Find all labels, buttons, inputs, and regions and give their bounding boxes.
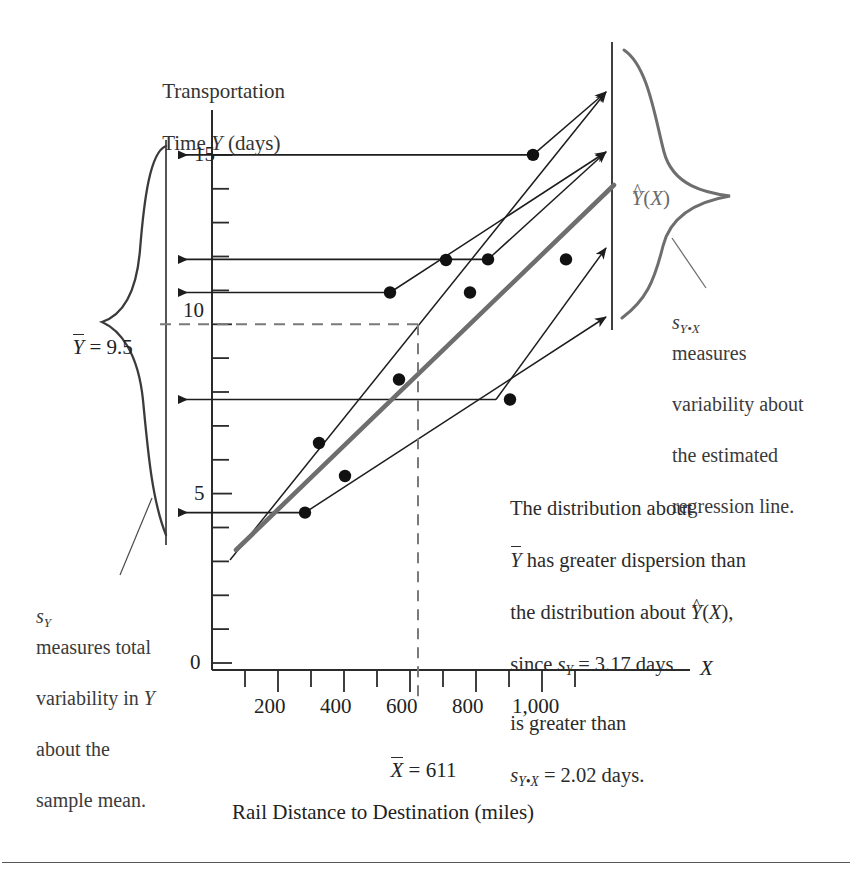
bottom-divider [2,862,850,863]
left-note: sY measures total variability in Y about… [26,578,216,813]
center-note-line6: = 2.02 days. [539,764,645,786]
data-point [440,254,452,266]
left-note-line1: measures total [36,636,151,658]
center-note-line5: is greater than [510,712,626,734]
right-note-leader [672,238,706,288]
y-tick-label-15: 15 [194,142,215,167]
center-note-line3a: the distribution about [510,601,691,623]
center-note-sub1: Y [565,663,573,678]
y-tick-label-5: 5 [194,481,205,506]
data-point [313,437,325,449]
data-point [299,506,311,518]
data-point [393,373,405,385]
center-note: The distribution about Y has greater dis… [500,469,800,795]
x-tick-label-400: 400 [320,694,352,719]
center-note-line4a: since [510,653,557,675]
left-note-line2: variability in Y [36,687,155,709]
data-point [504,393,516,405]
left-note-line4: sample mean. [36,789,146,811]
x-tick-label-200: 200 [254,694,286,719]
y-mean-label: Y = 9.5 [62,310,133,360]
data-point [527,149,539,161]
data-point [464,286,476,298]
center-note-sub2: Y•X [518,774,539,789]
left-note-line3: about the [36,738,110,760]
x-tick-label-600: 600 [386,694,418,719]
y-tick-label-10: 10 [183,298,204,323]
right-note-subscript: Y•X [680,320,700,335]
right-note-line2: variability about [672,393,804,415]
x-mean-label: X = 611 [380,733,456,783]
horizontal-projection-arrows [178,155,533,513]
regression-line-label: ^Y(X) [621,161,670,211]
y-axis-title: Transportation Time Y (days) [152,52,285,156]
x-axis-caption: Rail Distance to Destination (miles) [232,800,534,825]
right-note-line1: measures [672,342,746,364]
data-point [560,253,572,265]
data-point [339,470,351,482]
center-note-line2: has greater dispersion than [522,549,746,571]
center-note-line1: The distribution about [510,497,692,519]
data-point [384,286,396,298]
center-note-line3b: , [728,601,733,623]
data-point [482,253,494,265]
left-note-leader [120,498,152,575]
left-note-subscript: Y [44,614,51,629]
y-axis-title-line2: Time Y (days) [162,131,280,155]
scatter-points [299,149,572,519]
right-note-line3: the estimated [672,444,778,466]
x-tick-label-800: 800 [452,694,484,719]
center-note-line4b: = 3.17 days [573,653,673,675]
y-axis-title-line1: Transportation [162,79,285,103]
